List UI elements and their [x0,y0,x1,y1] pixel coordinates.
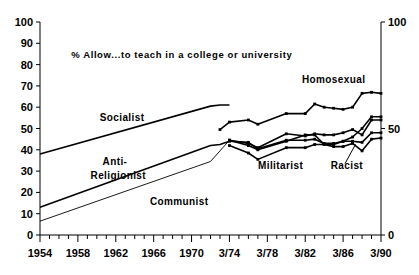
data-point [380,92,383,95]
chart-container: 0102030405060708090100050100195419581962… [0,0,419,275]
data-point [380,137,383,140]
x-tick-label: 1966 [141,247,165,259]
y-tick-label-left: 20 [21,186,33,198]
data-point [285,112,288,115]
data-point [304,139,307,142]
data-point [332,133,335,136]
data-point [361,141,364,144]
data-point [342,131,345,134]
data-point [228,121,231,124]
data-point [304,133,307,136]
data-point [332,145,335,148]
y-tick-label-left: 0 [27,229,33,241]
x-tick-label: 3/74 [219,247,241,259]
series-line-homosexual [220,92,381,129]
series-label-racist: Racist [331,160,364,171]
data-point [323,133,326,136]
data-point [285,132,288,135]
y-tick-label-left: 70 [21,80,33,92]
data-point [228,139,231,142]
y-tick-label-right: 50 [388,123,400,135]
data-point [247,119,250,122]
data-point [351,128,354,131]
line-chart: 0102030405060708090100050100195419581962… [0,0,419,275]
data-point [313,143,316,146]
data-point [361,92,364,95]
data-point [247,141,250,144]
data-point [219,128,222,131]
data-point [342,108,345,111]
data-point [351,136,354,139]
series-label-homosexual: Homosexual [302,74,365,85]
data-point [313,133,316,136]
x-tick-label: 3/86 [332,247,353,259]
data-point [247,152,250,155]
data-point [380,119,383,122]
data-point [304,112,307,115]
data-point [285,146,288,149]
y-tick-label-right: 100 [388,16,406,28]
data-point [380,115,383,118]
y-tick-label-left: 10 [21,208,33,220]
data-point [323,106,326,109]
data-point [370,131,373,134]
data-point [285,140,288,143]
data-point [370,91,373,94]
data-series-layer [40,91,382,221]
data-point [247,144,250,147]
y-tick-label-left: 90 [21,37,33,49]
y-tick-label-left: 100 [15,16,33,28]
y-tick-label-left: 40 [21,144,33,156]
data-point [351,142,354,145]
series-label-communist: Communist [150,196,209,207]
data-point [380,131,383,134]
data-point [370,115,373,118]
x-tick-label: 1954 [28,247,53,259]
data-point [228,144,231,147]
x-tick-label: 3/78 [257,247,278,259]
data-point [351,106,354,109]
series-label-socialist: Socialist [100,112,145,123]
x-tick-label: 1970 [179,247,203,259]
data-point [342,145,345,148]
data-point [323,143,326,146]
data-point [313,138,316,141]
x-tick-label: 3/82 [295,247,316,259]
chart-title: % Allow...to teach in a college or unive… [71,49,292,60]
data-point [256,148,259,151]
chart-title-layer: % Allow...to teach in a college or unive… [71,49,292,60]
y-tick-label-left: 50 [21,123,33,135]
series-label-anti-religionist: Anti-Religionist [91,156,147,181]
data-point [361,127,364,130]
x-tick-label: 1962 [104,247,128,259]
series-label-militarist: Militarist [258,160,303,171]
data-point [256,123,259,126]
data-point [313,103,316,106]
data-point [361,149,364,152]
y-tick-label-left: 30 [21,165,33,177]
data-point [332,107,335,110]
y-tick-label-right: 0 [388,229,394,241]
x-tick-label: 1958 [66,247,90,259]
y-tick-label-left: 60 [21,101,33,113]
data-point [304,146,307,149]
x-tick-label: 3/90 [370,247,391,259]
data-point [342,140,345,143]
data-point [361,133,364,136]
y-tick-label-left: 80 [21,59,33,71]
data-point [370,138,373,141]
